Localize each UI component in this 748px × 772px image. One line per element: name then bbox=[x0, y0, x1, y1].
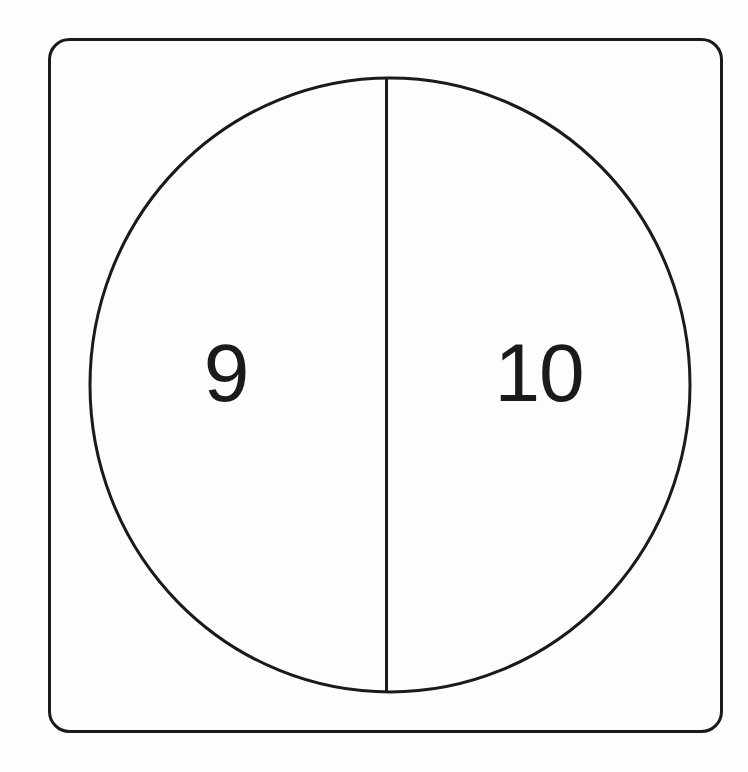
diagram-canvas: 9 10 bbox=[0, 0, 748, 772]
left-region-label: 9 bbox=[204, 327, 249, 418]
line-art-diagram: 9 10 bbox=[0, 0, 748, 772]
divided-circle-outline bbox=[90, 78, 690, 692]
right-region-label: 10 bbox=[494, 327, 583, 418]
